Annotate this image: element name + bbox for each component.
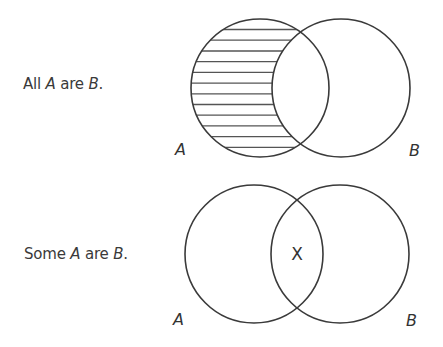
circle-a-label: A xyxy=(174,140,186,159)
circle-a-label: A xyxy=(172,310,184,329)
existence-mark-x: X xyxy=(291,244,303,264)
circle-b xyxy=(272,19,410,157)
circle-b-label: B xyxy=(409,141,420,160)
venn-some-a-are-b: X A B xyxy=(172,185,417,330)
circle-b-label: B xyxy=(406,311,417,330)
venn-diagrams: A B X A B xyxy=(0,0,443,347)
venn-all-a-are-b: A B xyxy=(174,19,420,160)
hatch-shading-a-minus-b xyxy=(185,30,335,148)
